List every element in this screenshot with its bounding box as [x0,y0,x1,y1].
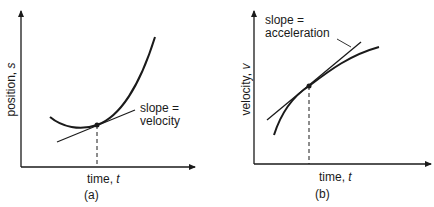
x-label-text: time, [87,172,113,186]
annotation-line-2: acceleration [265,27,330,40]
y-variable: v [239,64,253,70]
y-label-text: velocity, [239,73,253,115]
panel-a-annotation: slope = velocity [140,102,180,128]
panel-a-tangent-point [95,123,100,128]
acceleration-tangent-line [267,42,361,120]
panel-b-tangent-point [307,84,312,89]
x-label-text: time, [319,170,345,184]
y-variable: s [4,62,18,68]
annotation-pointer [337,39,351,47]
annotation-line-2: velocity [140,115,180,128]
panel-a-x-label: time, t [87,173,120,186]
panel-b-y-label: velocity, v [240,57,253,123]
x-variable: t [116,172,119,186]
x-variable: t [348,170,351,184]
panel-a-y-label: position, s [5,57,18,123]
velocity-curve [274,47,379,135]
panel-b-annotation: slope = acceleration [265,14,330,40]
diagram-canvas [0,0,434,207]
panel-a-graph [21,11,195,167]
panel-b-caption: (b) [315,188,330,201]
panel-a-caption: (a) [84,189,99,202]
panel-b-x-label: time, t [319,171,352,184]
y-label-text: position, [4,72,18,117]
